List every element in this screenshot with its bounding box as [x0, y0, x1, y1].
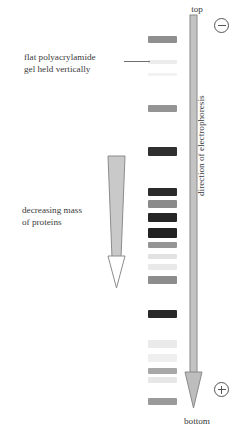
positive-electrode-icon — [214, 382, 229, 397]
gel-lane — [148, 0, 177, 435]
protein-band — [148, 354, 177, 362]
protein-band — [148, 276, 177, 284]
protein-band — [148, 264, 177, 270]
gel-leader-line — [124, 61, 150, 62]
protein-band — [148, 310, 177, 318]
protein-band — [148, 340, 177, 348]
protein-band — [148, 147, 177, 156]
decreasing-mass-label: decreasing mass of proteins — [22, 205, 82, 228]
protein-band — [148, 368, 177, 374]
protein-band — [148, 242, 177, 248]
protein-band — [148, 73, 177, 76]
gel-description-label: flat polyacrylamide gel held vertically — [24, 52, 96, 75]
protein-band — [148, 213, 177, 222]
protein-band — [148, 254, 177, 259]
negative-electrode-icon — [214, 18, 229, 33]
protein-band — [148, 377, 177, 383]
protein-band — [148, 398, 177, 405]
gel-electrophoresis-figure: flat polyacrylamide gel held vertically … — [0, 0, 241, 435]
protein-band — [148, 60, 177, 64]
protein-band — [148, 200, 177, 208]
direction-of-electrophoresis-label: direction of electrophoresis — [196, 36, 206, 196]
protein-band — [148, 228, 177, 238]
protein-band — [148, 188, 177, 196]
bottom-label: bottom — [174, 416, 220, 426]
protein-band — [148, 105, 177, 112]
top-label: top — [180, 4, 214, 14]
protein-band — [148, 36, 177, 43]
decreasing-mass-wedge-icon — [104, 155, 140, 290]
